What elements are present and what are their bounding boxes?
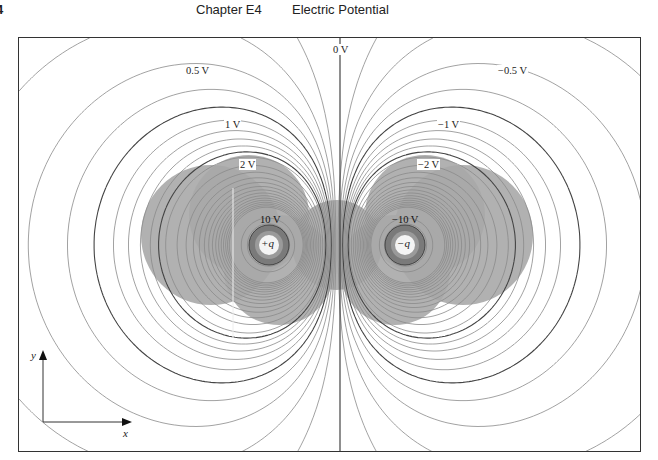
potential-label: 2 V [239, 159, 256, 170]
equipotential-figure: 0 V0.5 V−0.5 V1 V−1 V2 V−2 V10 V−10 V+q−… [18, 37, 641, 452]
running-head: Chapter E4Electric Potential [196, 2, 389, 17]
potential-label: −10 V [391, 214, 419, 225]
potential-label: −2 V [417, 159, 440, 170]
y-axis-arrow-icon [39, 350, 47, 360]
x-axis-label: x [123, 427, 128, 439]
negative-charge-label: −q [397, 237, 410, 249]
chapter-title: Electric Potential [292, 2, 389, 17]
chapter-label: Chapter E4 [196, 2, 292, 17]
potential-label: −0.5 V [497, 65, 528, 76]
dense-contour-shading [292, 200, 382, 290]
potential-label: 1 V [224, 119, 241, 130]
y-axis-label: y [31, 349, 36, 361]
equipotential-contours [19, 38, 641, 452]
positive-charge-label: +q [261, 237, 274, 249]
page-number: 4 [0, 2, 3, 17]
potential-label: 0 V [332, 44, 349, 55]
potential-label: −1 V [437, 119, 460, 130]
potential-label: 10 V [259, 214, 282, 225]
x-axis-arrow-icon [122, 418, 132, 426]
potential-label: 0.5 V [185, 65, 210, 76]
